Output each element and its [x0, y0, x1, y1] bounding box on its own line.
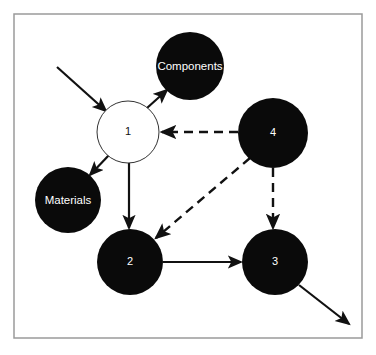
- diagram-canvas: ComponentsMaterials1423: [0, 0, 376, 355]
- node-1: 1: [97, 101, 159, 163]
- node-4: 4: [238, 98, 308, 168]
- node-materials: Materials: [35, 167, 101, 233]
- node-3-label: 3: [272, 255, 278, 267]
- node-4-label: 4: [270, 126, 276, 138]
- node-1-label: 1: [125, 125, 131, 137]
- node-components: Components: [156, 32, 224, 100]
- node-3: 3: [242, 229, 308, 295]
- node-2: 2: [97, 229, 163, 295]
- node-2-label: 2: [127, 255, 133, 267]
- diagram-svg: ComponentsMaterials1423: [0, 0, 376, 355]
- node-components-label: Components: [157, 60, 222, 72]
- node-materials-label: Materials: [45, 194, 92, 206]
